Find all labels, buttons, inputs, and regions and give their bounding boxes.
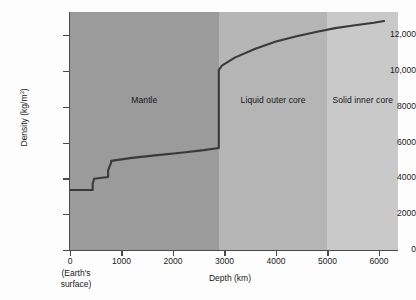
density-depth-chart: Mantle Liquid outer core Solid inner cor… (0, 0, 416, 300)
y-tick-label: 2000 (358, 208, 416, 218)
origin-annotation-line1: (Earth's (46, 268, 106, 279)
y-tick (63, 71, 70, 72)
plot-area: Mantle Liquid outer core Solid inner cor… (70, 12, 398, 250)
y-tick (63, 107, 70, 108)
superscript-3: 3 (19, 91, 25, 94)
y-tick-label: 10,000 (358, 65, 416, 75)
y-tick (63, 35, 70, 36)
y-tick (63, 250, 70, 251)
y-tick-label: 0 (358, 244, 416, 254)
density-curve (70, 12, 398, 250)
x-axis-title: Depth (km) (170, 273, 290, 283)
origin-annotation-line2: surface) (46, 279, 106, 290)
y-tick-label: 6000 (358, 137, 416, 147)
origin-annotation: (Earth's surface) (46, 268, 106, 290)
y-tick-label: 12,000 (358, 29, 416, 39)
y-tick (63, 143, 70, 144)
x-tick-label: 6000 (349, 256, 409, 266)
y-tick (63, 178, 70, 179)
y-tick (63, 214, 70, 215)
x-axis-line (69, 250, 398, 251)
y-axis-title: Density (kg/m3) (19, 57, 30, 177)
y-tick-label: 4000 (358, 172, 416, 182)
y-tick-label: 8000 (358, 101, 416, 111)
